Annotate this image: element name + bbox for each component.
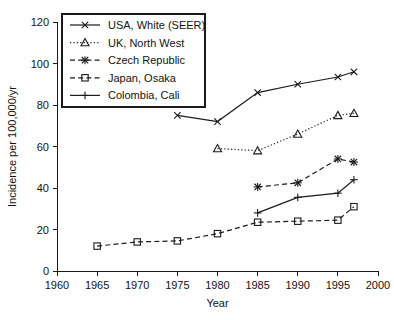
y-tick-label: 40 — [37, 182, 49, 194]
y-tick-label: 80 — [37, 99, 49, 111]
x-tick-label: 1995 — [326, 279, 350, 291]
chart-container: 0204060801001201960196519701975198019851… — [0, 0, 394, 320]
legend-label: Colombia, Cali — [108, 89, 180, 101]
legend-label: Japan, Osaka — [108, 72, 177, 84]
series-line-2 — [258, 159, 354, 187]
y-tick-label: 0 — [43, 265, 49, 277]
data-point — [214, 145, 222, 152]
x-tick-label: 1965 — [85, 279, 109, 291]
series-line-3 — [97, 207, 354, 246]
series-4 — [254, 176, 358, 217]
x-tick-label: 1985 — [245, 279, 269, 291]
x-axis-title: Year — [206, 297, 229, 309]
series-3 — [94, 203, 357, 249]
y-tick-label: 100 — [31, 58, 49, 70]
legend-label: Czech Republic — [108, 54, 186, 66]
legend-label: UK, North West — [108, 37, 184, 49]
x-tick-label: 1980 — [205, 279, 229, 291]
series-line-4 — [258, 180, 354, 213]
y-axis-title: Incidence per 100,000/yr — [6, 86, 18, 207]
series-1 — [214, 109, 358, 154]
x-tick-label: 1990 — [286, 279, 310, 291]
series-2 — [254, 155, 358, 191]
y-tick-label: 120 — [31, 16, 49, 28]
legend-label: USA, White (SEER) — [108, 19, 205, 31]
incidence-line-chart: 0204060801001201960196519701975198019851… — [0, 0, 394, 320]
data-point — [350, 109, 358, 116]
y-tick-label: 20 — [37, 224, 49, 236]
data-point — [254, 147, 262, 154]
x-tick-label: 2000 — [366, 279, 390, 291]
y-tick-label: 60 — [37, 141, 49, 153]
x-tick-label: 1975 — [165, 279, 189, 291]
x-tick-label: 1960 — [45, 279, 69, 291]
legend-layer: USA, White (SEER)UK, North WestCzech Rep… — [62, 14, 205, 107]
x-tick-label: 1970 — [125, 279, 149, 291]
data-point — [294, 130, 302, 137]
data-point — [334, 111, 342, 118]
